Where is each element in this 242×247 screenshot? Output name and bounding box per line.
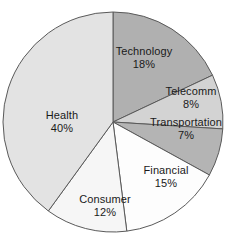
- pie-slice-label-name: Technology: [116, 45, 173, 58]
- pie-slice-label-financial: Financial15%: [144, 164, 189, 189]
- pie-slice-label-transportation: Transportation7%: [150, 116, 222, 141]
- pie-slice-label-value: 12%: [79, 205, 131, 218]
- pie-slice-label-value: 40%: [46, 121, 78, 134]
- pie-slice-label-name: Financial: [144, 164, 189, 177]
- pie-slice-label-telecomm: Telecomm8%: [166, 85, 217, 110]
- pie-slice-label-value: 7%: [150, 128, 222, 141]
- pie-slice-label-name: Transportation: [150, 116, 222, 129]
- pie-slice-label-name: Consumer: [79, 193, 131, 206]
- pie-slice-label-value: 18%: [116, 57, 173, 70]
- pie-slice-label-name: Telecomm: [166, 85, 217, 98]
- pie-slice-label-health: Health40%: [46, 109, 78, 134]
- pie-slice-label-consumer: Consumer12%: [79, 193, 131, 218]
- pie-slice-label-value: 8%: [166, 97, 217, 110]
- pie-slice-label-name: Health: [46, 109, 78, 122]
- pie-slice-label-technology: Technology18%: [116, 45, 173, 70]
- pie-slice-label-value: 15%: [144, 176, 189, 189]
- pie-chart: Technology18%Telecomm8%Transportation7%F…: [0, 0, 242, 247]
